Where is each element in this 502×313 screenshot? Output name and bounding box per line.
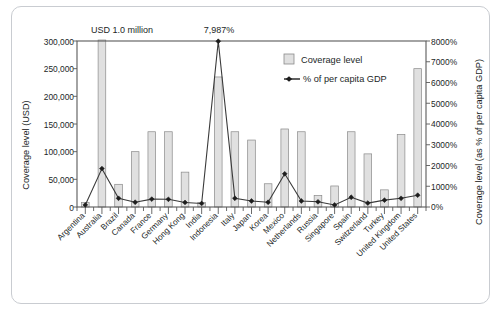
- bar-mexico: [281, 129, 289, 207]
- bar-switzerland: [364, 154, 372, 207]
- y2-axis-tickmarks: [426, 41, 430, 207]
- bar-indonesia: [214, 77, 222, 207]
- y2-tick-label: 5000%: [431, 99, 458, 109]
- y2-axis-title: Coverage level (as % of per capita GDP): [474, 59, 484, 225]
- y2-tick-label: 1000%: [431, 182, 458, 192]
- australia-value-callout: USD 1.0 million: [91, 25, 153, 35]
- bar-france: [148, 132, 156, 207]
- y2-axis-ticks: 8000% 7000% 6000% 5000% 4000% 3000% 2000…: [431, 37, 458, 213]
- bar-series: [81, 40, 421, 207]
- y2-tick-label: 7000%: [431, 57, 458, 67]
- y-tick-label: 100,000: [44, 147, 75, 157]
- y-tick-label: 50,000: [48, 175, 74, 185]
- y-tick-label: 0: [69, 203, 74, 213]
- y2-tick-label: 8000%: [431, 37, 458, 47]
- y-axis-title: Coverage level (USD): [21, 100, 31, 189]
- y-axis-ticks: 300,000 250,000 200,000 150,000 100,000 …: [44, 37, 75, 213]
- legend-swatch-coverage-level: [284, 54, 294, 64]
- y2-tick-label: 2000%: [431, 161, 458, 171]
- chart-svg: Coverage level (USD) Coverage level (as …: [12, 7, 491, 305]
- bar-united-states: [414, 69, 422, 207]
- bar-germany: [165, 132, 173, 207]
- chart-area: Coverage level (USD) Coverage level (as …: [12, 7, 491, 305]
- legend: Coverage level % of per capita GDP: [284, 54, 387, 84]
- y-tick-label: 300,000: [44, 37, 75, 47]
- indonesia-peak-callout: 7,987%: [204, 25, 235, 35]
- y2-tick-label: 6000%: [431, 78, 458, 88]
- figure-card: Coverage level (USD) Coverage level (as …: [11, 6, 490, 304]
- data-point-indonesia: [216, 39, 221, 44]
- y-tick-label: 200,000: [44, 92, 75, 102]
- y2-tick-label: 4000%: [431, 119, 458, 129]
- bar-australia: [98, 40, 106, 207]
- legend-label-gdp: % of per capita GDP: [303, 74, 387, 84]
- y-tick-label: 150,000: [44, 120, 75, 130]
- y2-tick-label: 3000%: [431, 140, 458, 150]
- legend-label-coverage-level: Coverage level: [301, 55, 362, 65]
- y-tick-label: 250,000: [44, 64, 75, 74]
- bar-canada: [131, 152, 139, 207]
- bar-japan: [248, 140, 256, 207]
- y2-tick-label: 0%: [431, 202, 444, 212]
- x-axis-labels: ArgentinaAustraliaBrazilCanadaFranceGerm…: [56, 210, 420, 258]
- legend-marker-gdp: [286, 76, 292, 82]
